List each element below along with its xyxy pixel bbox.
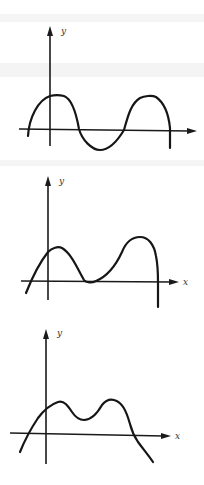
- graph-3-x-arrowhead: [161, 433, 171, 439]
- graph-2-y-arrowhead: [45, 176, 51, 186]
- graph-2-x-arrowhead: [169, 279, 179, 285]
- graph-1-x-arrowhead: [187, 128, 197, 134]
- graph-2-x-label: x: [183, 277, 188, 287]
- graph-3-curve: [20, 400, 153, 462]
- graph-2-y-label: y: [58, 176, 65, 186]
- graph-3-y-arrowhead: [43, 329, 49, 339]
- graph-3-x-label: x: [175, 431, 180, 441]
- figure: y y x y x: [0, 0, 204, 485]
- graph-3-x-axis: [10, 433, 164, 436]
- graph-1-y-arrowhead: [47, 26, 53, 36]
- scan-artifact: [0, 160, 204, 166]
- graph-3: y x: [10, 328, 180, 464]
- graph-1: y: [19, 26, 197, 150]
- graph-2: y x: [21, 176, 188, 307]
- graph-1-y-label: y: [60, 26, 67, 36]
- graph-3-y-label: y: [56, 328, 63, 338]
- graph-1-x-axis: [19, 129, 190, 131]
- scan-artifact: [0, 14, 204, 22]
- graph-2-curve: [26, 237, 158, 307]
- scan-artifact: [0, 63, 204, 77]
